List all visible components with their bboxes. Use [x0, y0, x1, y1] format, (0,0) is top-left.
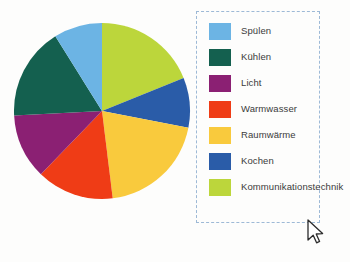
legend-item[interactable]: Kühlen	[209, 48, 343, 66]
legend-color-swatch	[209, 101, 231, 118]
pie-slice-group	[14, 23, 190, 199]
legend-item[interactable]: Warmwasser	[209, 100, 343, 118]
legend-color-swatch	[209, 127, 231, 144]
legend-item[interactable]: Raumwärme	[209, 126, 343, 144]
cursor-arrow-icon	[306, 219, 326, 247]
legend-item-label: Kühlen	[241, 52, 271, 62]
legend-item-label: Warmwasser	[241, 104, 297, 114]
chart-legend: SpülenKühlenLichtWarmwasserRaumwärmeKoch…	[196, 11, 320, 223]
legend-item-label: Kochen	[241, 156, 274, 166]
legend-color-swatch	[209, 49, 231, 66]
pie-chart	[12, 17, 192, 207]
legend-item[interactable]: Kochen	[209, 152, 343, 170]
legend-color-swatch	[209, 75, 231, 92]
pie-chart-area	[12, 17, 192, 207]
legend-color-swatch	[209, 153, 231, 170]
legend-item[interactable]: Licht	[209, 74, 343, 92]
mouse-pointer-icon	[306, 219, 326, 247]
legend-list: SpülenKühlenLichtWarmwasserRaumwärmeKoch…	[209, 22, 343, 204]
legend-item-label: Raumwärme	[241, 130, 296, 140]
legend-item-label: Spülen	[241, 26, 271, 36]
legend-item-label: Licht	[241, 78, 262, 88]
legend-item[interactable]: Kommunikationstechnik	[209, 178, 343, 196]
legend-item-label: Kommunikationstechnik	[241, 182, 343, 192]
legend-color-swatch	[209, 179, 231, 196]
legend-color-swatch	[209, 23, 231, 40]
legend-item[interactable]: Spülen	[209, 22, 343, 40]
